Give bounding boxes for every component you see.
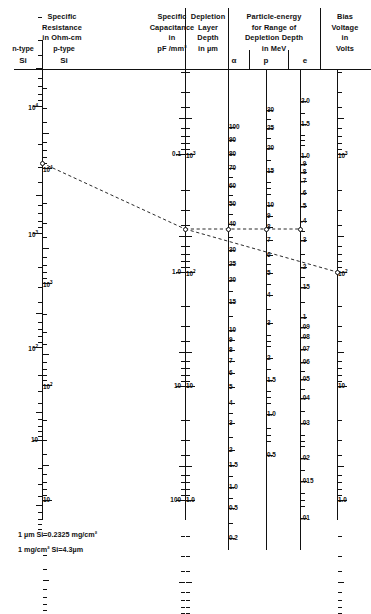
electron-energy-label: .05 [301,376,335,382]
axis-tick-minor [181,361,185,362]
alpha-energy-label: 1.0 [229,484,263,490]
bias-voltage-label: 102 [338,269,371,278]
alpha-energy-label: 80 [229,151,263,157]
axis-tick-minor [301,411,305,412]
alpha-energy-label: 20 [229,277,263,283]
axis-tick-minor [186,190,190,191]
axis-tick-minor [43,88,47,89]
axis-tick-minor [338,72,342,73]
header-bias-voltage: Bias Voltage in Volts [322,12,368,54]
axis-tick-minor [338,592,342,593]
proton-energy-label: 20 [267,145,301,151]
axis-tick-minor [38,419,42,420]
axis-tick-minor [43,569,47,570]
alpha-energy-label: 70 [229,165,263,171]
axis-tick-minor [179,236,185,237]
separator-depletion-right [228,8,229,69]
proton-energy-label: 5 [267,270,301,276]
axis-tick-minor [181,72,185,73]
axis-tick-minor [38,287,42,288]
axis-tick-minor [181,306,185,307]
capacitance-label: 1.0 [151,269,181,275]
axis-tick-minor [186,420,190,421]
depletion-label: 10 [186,383,220,389]
resistance-p-label: 103 [43,280,77,289]
header-line: for Range of [228,23,320,34]
axis-tick-minor [43,108,47,109]
axis-tick-minor [181,261,185,262]
resistance-p-label: 102 [43,382,77,391]
axis-tick-minor [267,309,271,310]
header-line: Layer [187,23,229,34]
axis-tick-minor [181,136,185,137]
axis-tick-minor [186,556,190,557]
resistance-p-label: 10 [43,497,77,503]
axis-tick-minor [38,40,42,41]
axis-tick-minor [186,149,190,150]
axis-tick-minor [38,78,42,79]
axis-tick-minor [38,94,42,95]
proton-energy-label: 1.0 [267,411,301,417]
axis-tick-minor [186,136,190,137]
subheader-p-type: p-type [44,44,84,53]
resistance-n-label: 102 [8,344,38,353]
axis-tick-minor [38,213,42,214]
axis-tick-minor [181,592,185,593]
alpha-energy-label: 5 [229,384,263,390]
axis-tick-minor [43,465,49,466]
axis-tick-minor [38,144,42,145]
axis-tick-minor [43,257,47,258]
axis-tick-minor [181,556,185,557]
header-line: Resistance [8,23,116,34]
axis-tick-minor [38,329,42,330]
axis-tick-minor [186,306,190,307]
axis-tick-minor [338,352,344,353]
resistance-n-label: 10 [8,437,38,443]
axis-tick-minor [181,440,185,441]
axis-tick-minor [43,332,47,333]
axis-tick-minor [338,536,342,537]
axis-tick-minor [301,277,305,278]
axis-tick-minor [38,426,42,427]
axis-tick-minor [338,489,342,490]
axis-tick-minor [229,214,233,215]
axis-tick-minor [186,571,190,572]
axis-tick-minor [38,302,42,303]
axis-tick-minor [38,496,42,497]
axis-tick-minor [38,436,42,437]
electron-energy-label: .1 [301,314,335,320]
header-depletion-depth: Depletion Layer Depth in µm [187,12,229,54]
header-line: in Ohm-cm [8,33,116,44]
axis-tick-minor [338,482,342,483]
proton-energy-label: 2 [267,355,301,361]
electron-energy-label: .5 [301,203,335,209]
axis-tick-minor [43,223,47,224]
axis-tick-minor [338,341,342,342]
axis-tick-minor [38,431,42,432]
bias-voltage-label: 1.0 [338,497,371,503]
depletion-label: 103 [186,151,220,160]
axis-tick-minor [38,336,42,337]
axis-tick-minor [267,188,271,189]
axis-tick-minor [338,149,342,150]
axis-resistance [42,69,43,520]
axis-tick-minor [181,341,185,342]
axis-tick-minor [301,446,305,447]
axis-tick-minor [43,454,47,455]
axis-tick-minor [267,397,271,398]
axis-tick-minor [43,142,47,143]
axis-tick-minor [181,489,185,490]
marker-resistance [40,161,45,166]
alpha-energy-label: 3 [229,420,263,426]
axis-tick-minor [338,190,342,191]
axis-tick-minor [38,322,42,323]
axis-tick-minor [181,495,185,496]
axis-tick-minor [186,128,190,129]
axis-tick-minor [338,556,342,557]
header-line: Depletion [187,12,229,23]
axis-tick-minor [267,119,271,120]
axis-tick-minor [43,589,47,590]
axis-tick-minor [186,466,192,467]
axis-tick-minor [181,600,185,601]
axis-tick-minor [338,306,342,307]
